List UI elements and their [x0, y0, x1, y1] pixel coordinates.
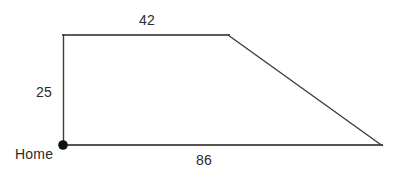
home-vertex-dot	[58, 140, 68, 150]
home-point-label: Home	[15, 147, 53, 161]
bottom-side-length-label: 86	[196, 153, 212, 167]
slanted-side-line	[228, 35, 382, 146]
trapezoid-shape-svg	[0, 0, 398, 173]
geometry-figure-canvas: 42 25 86 Home	[0, 0, 398, 173]
top-side-length-label: 42	[139, 13, 155, 27]
left-side-length-label: 25	[36, 85, 52, 99]
